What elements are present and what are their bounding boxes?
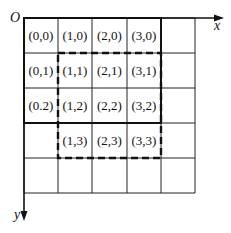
x-axis-label: x [213, 18, 221, 33]
cell-label: (2,1) [97, 63, 122, 78]
cell-label: (3,3) [132, 133, 157, 148]
y-axis-arrow-icon [21, 211, 28, 221]
grid-diagram: O x y (0,0)(1,0)(2,0)(3,0)(0,1)(1,1)(2,1… [0, 0, 231, 233]
cell-label: (0.2) [29, 98, 54, 113]
cell-label: (3,2) [132, 98, 157, 113]
cell-label: (3,1) [132, 63, 157, 78]
cell-label: (0,1) [29, 63, 54, 78]
cell-label: (2,0) [97, 28, 122, 43]
origin-label: O [10, 10, 20, 25]
cell-label: (1,2) [63, 98, 88, 113]
cell-label: (2,2) [97, 98, 122, 113]
cell-label: (1,0) [63, 28, 88, 43]
cell-label: (3,0) [132, 28, 157, 43]
cell-label: (2,3) [97, 133, 122, 148]
cell-label: (0,0) [29, 28, 54, 43]
cell-label: (1,1) [63, 63, 88, 78]
cell-label: (1,3) [63, 133, 88, 148]
y-axis-label: y [12, 207, 21, 222]
